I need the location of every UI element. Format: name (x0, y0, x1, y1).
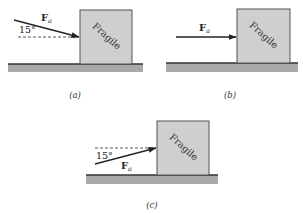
panel-caption: (c) (146, 200, 157, 210)
panel-c: Fragile Fa 15° (c) (86, 121, 218, 210)
force-label: Fa (199, 22, 210, 35)
ground (166, 63, 298, 72)
ground (8, 64, 143, 72)
ground (86, 175, 218, 184)
force-label: Fa (121, 160, 132, 173)
panel-a: Fragile Fa 15° (a) (8, 10, 143, 100)
panel-caption: (b) (224, 90, 236, 100)
force-label: Fa (41, 12, 52, 25)
angle-label: 15° (96, 150, 113, 161)
panel-b: Fragile Fa (b) (166, 9, 298, 100)
force-diagram: Fragile Fa 15° (a) Fragile Fa (b) Fragil… (0, 0, 303, 215)
angle-label: 15° (19, 24, 36, 35)
panel-caption: (a) (69, 90, 81, 100)
